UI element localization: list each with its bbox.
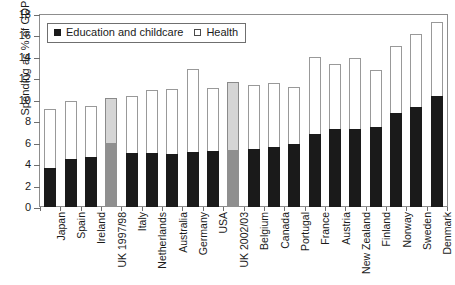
x-axis-tick bbox=[284, 207, 285, 211]
y-axis-tick-label: 12 bbox=[19, 72, 31, 85]
bar-segment-health bbox=[309, 57, 321, 134]
x-axis-label: Japan bbox=[55, 212, 67, 241]
bar-segment-education bbox=[349, 129, 361, 207]
bar-segment-health bbox=[370, 70, 382, 127]
bar-norway bbox=[390, 46, 402, 207]
y-axis-tick-label: 16 bbox=[19, 29, 31, 42]
x-axis-label: Spain bbox=[75, 212, 87, 239]
bar-segment-education bbox=[390, 113, 402, 207]
bar-segment-health bbox=[410, 34, 422, 107]
bar-australia bbox=[166, 89, 178, 207]
bar-denmark bbox=[431, 22, 443, 207]
y-axis-tick-label: 18 bbox=[19, 8, 31, 21]
bar-segment-health bbox=[248, 85, 260, 149]
bar-segment-health bbox=[268, 83, 280, 147]
bar-segment-health bbox=[227, 82, 239, 151]
x-axis-tick bbox=[162, 207, 163, 211]
bar-segment-health bbox=[146, 90, 158, 153]
bar-segment-education bbox=[105, 143, 117, 207]
bar-segment-education bbox=[410, 107, 422, 207]
y-axis-tick-label: 4 bbox=[25, 158, 31, 171]
x-axis-tick bbox=[264, 207, 265, 211]
x-axis-label: Denmark bbox=[441, 212, 453, 255]
x-axis-tick bbox=[81, 207, 82, 211]
bar-segment-education bbox=[187, 152, 199, 207]
x-axis-tick bbox=[447, 207, 448, 211]
bar-segment-health bbox=[44, 109, 56, 168]
bar-segment-health bbox=[85, 106, 97, 156]
x-axis-tick bbox=[203, 207, 204, 211]
x-axis-tick bbox=[121, 207, 122, 211]
x-axis-label: New Zealand bbox=[360, 212, 372, 274]
bar-germany bbox=[187, 69, 199, 207]
x-axis-label: Germany bbox=[197, 212, 209, 255]
x-axis-tick bbox=[325, 207, 326, 211]
bar-austria bbox=[329, 64, 341, 207]
bar-segment-education bbox=[44, 168, 56, 207]
bar-segment-education bbox=[248, 149, 260, 207]
bar-segment-health bbox=[187, 69, 199, 153]
bar-segment-health bbox=[65, 101, 77, 159]
bar-segment-health bbox=[126, 96, 138, 154]
x-axis-tick bbox=[223, 207, 224, 211]
bar-segment-education bbox=[268, 147, 280, 207]
x-axis-label: Norway bbox=[401, 212, 413, 248]
bar-uk-1997-98 bbox=[105, 98, 117, 207]
x-axis-labels: JapanSpainIrelandUK 1997/98ItalyNetherla… bbox=[40, 212, 447, 285]
bar-segment-health bbox=[329, 64, 341, 128]
x-axis-tick bbox=[386, 207, 387, 211]
bar-segment-health bbox=[207, 88, 219, 151]
y-axis-tick-label: 10 bbox=[19, 94, 31, 107]
x-axis-tick bbox=[182, 207, 183, 211]
x-axis-label: Finland bbox=[380, 212, 392, 246]
y-axis-tick-label: 2 bbox=[25, 180, 31, 193]
legend-item-education: Education and childcare bbox=[54, 26, 183, 39]
x-axis-tick bbox=[142, 207, 143, 211]
bar-netherlands bbox=[146, 90, 158, 207]
bar-japan bbox=[44, 109, 56, 207]
filled-square-icon bbox=[54, 29, 61, 36]
bar-new-zealand bbox=[349, 58, 361, 207]
bar-segment-education bbox=[65, 159, 77, 207]
bar-segment-health bbox=[390, 46, 402, 112]
bar-segment-education bbox=[309, 134, 321, 207]
x-axis-label: Austria bbox=[340, 212, 352, 245]
x-axis-label: Australia bbox=[177, 212, 189, 253]
y-axis-tick-label: 6 bbox=[25, 137, 31, 150]
x-axis-label: Sweden bbox=[421, 212, 433, 250]
bar-segment-health bbox=[288, 87, 300, 144]
bar-segment-health bbox=[431, 22, 443, 96]
bar-ireland bbox=[85, 106, 97, 207]
x-axis-tick bbox=[101, 207, 102, 211]
bar-segment-education bbox=[370, 127, 382, 207]
chart-container: Spending as % of GDP 024681012141618 Jap… bbox=[0, 0, 455, 285]
bar-segment-education bbox=[146, 153, 158, 207]
x-axis-label: UK 2002/03 bbox=[238, 212, 250, 267]
bar-segment-education bbox=[207, 151, 219, 207]
bar-portugal bbox=[288, 87, 300, 207]
x-axis-tick bbox=[345, 207, 346, 211]
chart-legend: Education and childcare Health bbox=[47, 23, 246, 43]
x-axis-label: UK 1997/98 bbox=[116, 212, 128, 267]
bar-segment-health bbox=[349, 58, 361, 129]
x-axis-label: Netherlands bbox=[156, 212, 168, 269]
bar-uk-2002-03 bbox=[227, 82, 239, 207]
bar-segment-education bbox=[166, 154, 178, 207]
x-axis-tick bbox=[427, 207, 428, 211]
y-axis-tick-label: 14 bbox=[19, 51, 31, 64]
bar-segment-education bbox=[227, 150, 239, 207]
bar-sweden bbox=[410, 34, 422, 207]
x-axis-tick bbox=[60, 207, 61, 211]
x-axis-label: France bbox=[319, 212, 331, 245]
bar-italy bbox=[126, 96, 138, 208]
legend-label-education: Education and childcare bbox=[66, 26, 183, 39]
x-axis-label: Ireland bbox=[95, 212, 107, 244]
x-axis-tick bbox=[406, 207, 407, 211]
y-axis-tick-label: 0 bbox=[25, 201, 31, 214]
x-axis-tick bbox=[366, 207, 367, 211]
bar-usa bbox=[207, 88, 219, 207]
x-axis-label: Belgium bbox=[258, 212, 270, 250]
bar-finland bbox=[370, 70, 382, 207]
legend-label-health: Health bbox=[206, 26, 238, 39]
legend-item-health: Health bbox=[194, 26, 238, 39]
